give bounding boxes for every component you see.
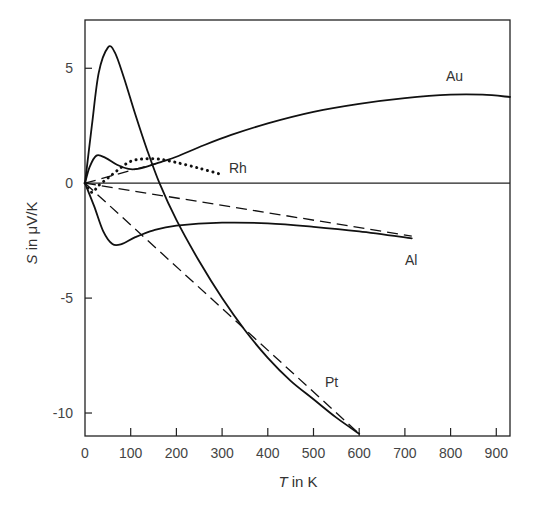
series-al-linear-approx <box>85 183 412 236</box>
series-label-al: Al <box>405 252 417 268</box>
series-al <box>85 183 412 245</box>
y-tick-label: -5 <box>61 290 74 306</box>
series-au <box>85 94 510 183</box>
y-tick-label: 0 <box>65 175 73 191</box>
x-tick-label: 0 <box>81 445 89 461</box>
series-label-pt: Pt <box>325 374 338 390</box>
series-pt-linear-approx <box>85 183 359 434</box>
x-tick-label: 300 <box>210 445 234 461</box>
x-tick-label: 100 <box>119 445 143 461</box>
series-label-rh: Rh <box>229 160 247 176</box>
y-axis-title: S in μV/K <box>23 202 40 265</box>
x-axis-title: T in K <box>278 473 317 490</box>
series-labels: AuRhPtAl <box>229 68 463 390</box>
x-tick-label: 700 <box>393 445 417 461</box>
x-tick-label: 600 <box>348 445 372 461</box>
series-pt <box>85 46 359 434</box>
y-tick-label: -10 <box>53 405 73 421</box>
thermopower-chart: 010020030040050060070080090050-5-10 AuRh… <box>0 0 533 513</box>
x-tick-label: 200 <box>165 445 189 461</box>
x-tick-label: 800 <box>439 445 463 461</box>
x-tick-label: 400 <box>256 445 280 461</box>
y-tick-label: 5 <box>65 60 73 76</box>
series-lines <box>85 46 510 434</box>
x-tick-label: 500 <box>302 445 326 461</box>
x-tick-label: 900 <box>485 445 509 461</box>
series-label-au: Au <box>446 68 463 84</box>
